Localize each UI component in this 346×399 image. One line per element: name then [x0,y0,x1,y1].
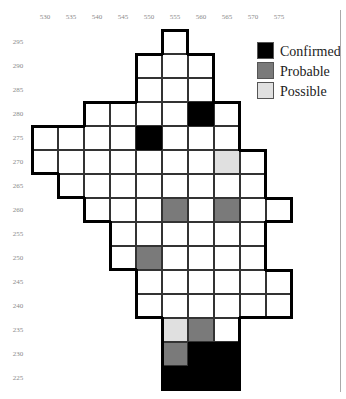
outline-segment [264,173,267,199]
grid-cell-none [214,246,240,270]
grid-cell-none [214,102,240,126]
grid-cell-none [266,270,292,294]
grid-cell-none [136,174,162,198]
grid-cell-none [136,78,162,102]
outline-segment [161,365,164,391]
outline-segment [238,125,241,151]
outline-segment [135,53,138,79]
grid-cell-none [162,102,188,126]
grid-cell-none [110,102,136,126]
grid-cell-probable [136,246,162,270]
y-tick-label: 225 [8,366,28,390]
outline-segment [238,365,241,391]
outline-segment [238,341,241,367]
grid-cell-none [110,150,136,174]
outline-segment [135,53,163,56]
grid-cell-confirmed [162,366,188,390]
legend-swatch-probable [257,62,274,79]
outline-segment [290,269,293,295]
grid-cell-none [188,222,214,246]
grid-cell-none [188,294,214,318]
outline-segment [290,197,293,223]
grid-cell-none [240,150,266,174]
outline-segment [212,77,215,103]
legend-label-probable: Probable [280,63,330,80]
y-tick-label: 250 [8,246,28,270]
x-tick-label: 540 [84,13,110,21]
grid-cell-none [58,126,84,150]
grid-cell-none [214,318,240,342]
grid-cell-none [162,270,188,294]
x-tick-label: 550 [136,13,162,21]
y-tick-label: 270 [8,150,28,174]
legend-swatch-confirmed [257,42,274,59]
grid-cell-probable [188,318,214,342]
outline-segment [109,101,137,104]
x-tick-label: 555 [162,13,188,21]
grid-cell-none [162,126,188,150]
outline-segment [83,220,111,223]
grid-cell-none [110,222,136,246]
y-tick-label: 265 [8,174,28,198]
outline-segment [161,388,189,391]
outline-segment [57,125,85,128]
grid-cell-none [188,150,214,174]
grid-cell-confirmed [188,366,214,390]
grid-cell-none [266,198,292,222]
outline-segment [109,268,137,271]
grid-cell-none [136,150,162,174]
outline-segment [264,221,267,247]
grid-cell-none [240,270,266,294]
x-tick-label: 575 [266,13,292,21]
grid-cell-none [214,222,240,246]
grid-cell-none [188,246,214,270]
grid-cell-none [84,126,110,150]
y-tick-label: 275 [8,126,28,150]
grid-cell-confirmed [214,366,240,390]
grid-cell-none [240,174,266,198]
outline-segment [238,317,241,343]
grid-cell-none [214,174,240,198]
grid-cell-probable [162,198,188,222]
grid-cell-none [188,126,214,150]
y-tick-label: 285 [8,78,28,102]
outline-segment [109,221,112,247]
outline-segment [109,245,112,271]
y-tick-label: 245 [8,270,28,294]
grid-cell-none [110,126,136,150]
grid-cell-none [84,198,110,222]
x-tick-label: 545 [110,13,136,21]
outline-segment [187,53,215,56]
outline-segment [57,196,85,199]
grid-cell-none [136,102,162,126]
outline-segment [187,388,215,391]
y-tick-label: 295 [8,30,28,54]
outline-segment [83,197,86,223]
grid-cell-none [136,198,162,222]
grid-cell-probable [162,342,188,366]
outline-segment [239,316,267,319]
grid-cell-none [84,174,110,198]
y-tick-label: 280 [8,102,28,126]
outline-segment [57,173,60,199]
legend-swatch-possible [257,82,274,99]
grid-cell-none [162,246,188,270]
grid-cell-none [136,222,162,246]
x-tick-label: 530 [32,13,58,21]
grid-cell-none [84,102,110,126]
outline-segment [83,101,86,127]
grid-cell-none [58,150,84,174]
survey-grid-chart: 530535540545550555560565570575 295290285… [0,0,346,399]
outline-segment [265,197,293,200]
grid-cell-none [188,270,214,294]
grid-cell-none [162,54,188,78]
grid-cell-none [188,174,214,198]
grid-cell-none [240,222,266,246]
grid-cell-none [240,246,266,270]
grid-cell-none [110,246,136,270]
outline-segment [31,125,59,128]
outline-segment [213,388,241,391]
outline-segment [265,269,293,272]
outline-segment [31,149,34,175]
grid-cell-none [188,78,214,102]
